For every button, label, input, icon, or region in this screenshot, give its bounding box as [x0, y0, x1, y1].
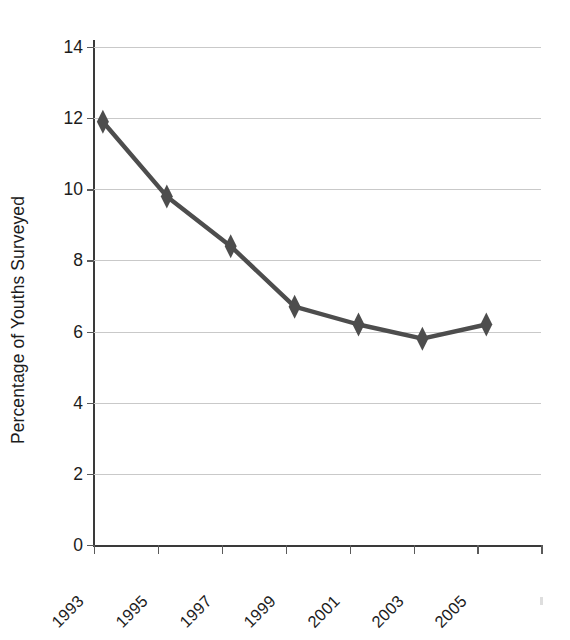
- y-axis-tick-label: 12: [64, 108, 83, 129]
- y-axis-tick-mark: [87, 403, 94, 404]
- y-axis-tick-mark: [87, 118, 94, 119]
- x-axis-tick-mark: [158, 545, 159, 554]
- plot-area: 02468101214: [94, 47, 541, 545]
- x-axis-tick-mark: [414, 545, 415, 554]
- y-axis-tick-label: 14: [64, 37, 83, 58]
- x-axis-tick-mark: [541, 545, 542, 554]
- x-axis-tick-label: 1993: [48, 592, 88, 632]
- x-axis-tick-mark: [286, 545, 287, 554]
- gridline: [94, 260, 541, 261]
- x-axis-line: [93, 545, 542, 547]
- x-axis-tick-label: 1995: [112, 592, 152, 632]
- x-axis-tick-label: 1999: [240, 592, 280, 632]
- x-axis-tick-mark: [350, 545, 351, 554]
- y-axis-tick-label: 8: [73, 250, 83, 271]
- x-axis-tick-label: 2003: [367, 592, 407, 632]
- y-axis-tick-label: 4: [73, 392, 83, 413]
- x-axis-tick-mark: [477, 545, 478, 554]
- gridline: [94, 474, 541, 475]
- y-axis-tick-label: 2: [73, 463, 83, 484]
- x-axis-tick-label: 2005: [431, 592, 471, 632]
- y-axis-tick-label: 6: [73, 321, 83, 342]
- y-axis-tick-mark: [87, 545, 94, 546]
- y-axis-tick-mark: [87, 189, 94, 190]
- gridline: [94, 403, 541, 404]
- line-chart-figure: Percentage of Youths Surveyed 0246810121…: [0, 0, 570, 640]
- x-axis-tick-mark: [94, 545, 95, 554]
- gridline: [94, 118, 541, 119]
- gridline: [94, 47, 541, 48]
- y-axis-tick-mark: [87, 47, 94, 48]
- y-axis-tick-mark: [87, 474, 94, 475]
- y-axis-tick-label: 10: [64, 179, 83, 200]
- gridline: [94, 332, 541, 333]
- x-axis-tick-label: 1997: [176, 592, 216, 632]
- gridline: [94, 189, 541, 190]
- y-axis-tick-mark: [87, 260, 94, 261]
- x-axis-tick-mark: [222, 545, 223, 554]
- x-axis-tick-label: 2001: [303, 592, 343, 632]
- y-axis-tick-mark: [87, 332, 94, 333]
- y-axis-title: Percentage of Youths Surveyed: [0, 0, 36, 640]
- scan-artifact: [540, 597, 543, 605]
- y-axis-tick-label: 0: [73, 535, 83, 556]
